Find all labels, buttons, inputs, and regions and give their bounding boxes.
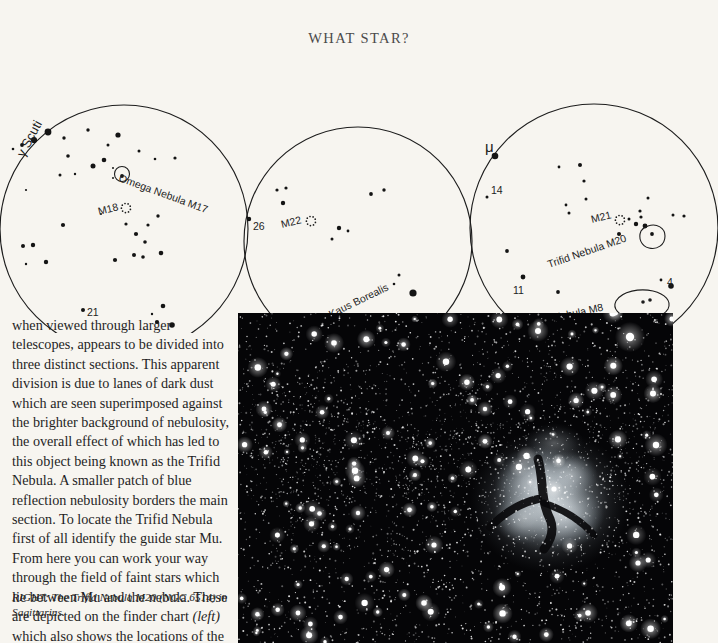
photo-star (630, 488, 631, 489)
photo-star (386, 399, 388, 401)
photo-star (651, 539, 652, 540)
photo-star (627, 524, 629, 526)
chart-star (382, 188, 385, 191)
photo-star (328, 476, 329, 477)
photo-star (504, 486, 506, 488)
photo-star (313, 591, 314, 592)
photo-star (633, 425, 635, 427)
photo-bright-star (544, 632, 549, 637)
photo-star (252, 394, 253, 395)
photo-star (616, 408, 618, 410)
photo-star (370, 315, 372, 317)
photo-star (314, 403, 315, 404)
photo-star (671, 349, 673, 351)
photo-star (523, 582, 524, 583)
photo-star (487, 432, 488, 433)
photo-star (395, 550, 396, 551)
photo-star (416, 444, 417, 445)
photo-star (259, 590, 261, 592)
photo-star (280, 555, 282, 557)
photo-star (418, 521, 419, 522)
photo-star (568, 599, 569, 600)
photo-star (389, 591, 390, 592)
photo-star (445, 446, 446, 447)
photo-star (644, 606, 645, 607)
photo-star (358, 613, 359, 614)
photo-star (479, 460, 480, 461)
photo-star (359, 407, 360, 408)
photo-star (580, 523, 581, 524)
photo-star (478, 570, 479, 571)
photo-star (625, 566, 627, 568)
photo-star (263, 511, 265, 513)
photo-star (325, 622, 326, 623)
photo-star (600, 437, 601, 438)
photo-star (602, 400, 604, 402)
photo-star (550, 438, 552, 440)
photo-star (572, 449, 573, 450)
photo-star (313, 485, 314, 486)
photo-star (533, 496, 534, 497)
photo-star (360, 532, 361, 533)
photo-star (502, 490, 503, 491)
photo-star (355, 395, 356, 396)
photo-star (366, 388, 368, 390)
photo-star (607, 608, 608, 609)
photo-star (301, 570, 302, 571)
photo-star (479, 483, 480, 484)
photo-star (456, 442, 457, 443)
photo-star (499, 566, 501, 568)
photo-bright-star (650, 474, 656, 480)
photo-star (307, 383, 308, 384)
photo-star (444, 531, 446, 533)
photo-bright-star (311, 331, 316, 336)
photo-star (616, 572, 617, 573)
photo-star (302, 519, 303, 520)
photo-star (524, 550, 526, 552)
photo-star (610, 427, 611, 428)
photo-star (533, 465, 535, 467)
photo-star (462, 595, 463, 596)
photo-star (457, 553, 458, 554)
photo-star (646, 599, 647, 600)
photo-star (276, 451, 277, 452)
photo-star (293, 533, 294, 534)
photo-star (490, 640, 492, 642)
photo-star (600, 319, 601, 320)
photo-star (640, 522, 641, 523)
photo-star (478, 330, 479, 331)
photo-star (335, 572, 336, 573)
photo-star (317, 468, 318, 469)
photo-star (588, 429, 589, 430)
photo-star (670, 339, 672, 341)
photo-star (604, 466, 605, 467)
photo-star (252, 385, 253, 386)
chart-star (647, 197, 650, 200)
photo-star (390, 600, 392, 602)
photo-star (596, 584, 598, 586)
photo-star (533, 478, 534, 479)
photo-star (552, 333, 554, 335)
photo-star (599, 590, 600, 591)
photo-star (426, 565, 428, 567)
photo-star (628, 593, 630, 595)
photo-star (281, 585, 283, 587)
trifid-nebula-photograph (238, 313, 673, 643)
photo-star (301, 520, 302, 521)
photo-star (393, 543, 394, 544)
photo-star (411, 392, 412, 393)
photo-star (565, 517, 567, 519)
photo-star (641, 408, 642, 409)
photo-star (499, 503, 501, 505)
photo-star (544, 365, 545, 366)
photo-star (667, 475, 669, 477)
photo-star (398, 314, 400, 316)
photo-star (269, 460, 270, 461)
photo-star (264, 509, 266, 511)
photo-star (281, 601, 282, 602)
photo-star (649, 538, 650, 539)
photo-star (654, 319, 656, 321)
photo-star (264, 605, 265, 606)
photo-star (305, 472, 306, 473)
photo-star (667, 605, 669, 607)
